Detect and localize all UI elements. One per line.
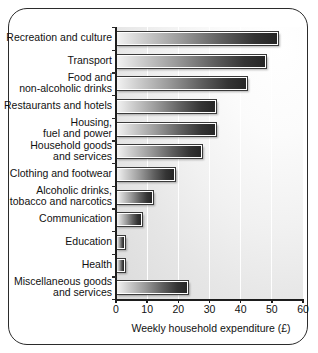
y-axis-tick [112,140,116,141]
y-axis-tick [112,27,116,28]
y-axis-tick [112,186,116,187]
y-axis-category-labels: Recreation and cultureTransportFood and … [2,27,112,299]
y-axis-tick [112,208,116,209]
y-axis-label: Education [4,236,112,248]
y-axis-label: Restaurants and hotels [4,100,112,112]
bar [116,145,202,158]
y-axis-label: Household goods and services [4,140,112,163]
gridline-60 [303,27,304,299]
bar [116,77,247,90]
y-axis-label: Miscellaneous goods and services [4,276,112,299]
y-axis-label: Food and non-alcoholic drinks [4,72,112,95]
gridline-10 [147,27,148,299]
y-axis-tick [112,72,116,73]
y-axis-tick [112,254,116,255]
x-axis-tick-label: 30 [204,303,216,315]
y-axis-label: Alcoholic drinks, tobacco and narcotics [4,185,112,208]
bar [116,281,188,294]
y-axis-label: Transport [4,55,112,67]
bar [116,236,125,249]
plot-area [116,27,303,299]
bar [116,55,266,68]
y-axis-label: Clothing and footwear [4,168,112,180]
x-axis-tick-label: 20 [172,303,184,315]
y-axis-tick [112,50,116,51]
bar [116,259,125,272]
y-axis-label: Recreation and culture [4,32,112,44]
gridline-50 [271,27,272,299]
y-axis-label: Health [4,259,112,271]
y-axis-tick [112,163,116,164]
chart-figure: Recreation and cultureTransportFood and … [0,0,318,353]
bar [116,123,216,136]
bar [116,32,278,45]
bar [116,168,175,181]
x-axis-tick-label: 10 [141,303,153,315]
gridline-40 [240,27,241,299]
y-axis-label: Communication [4,213,112,225]
x-axis-tick-label: 60 [297,303,309,315]
y-axis-tick [112,231,116,232]
x-axis-tick-label: 40 [235,303,247,315]
y-axis-tick [112,95,116,96]
y-axis-label: Housing, fuel and power [4,117,112,140]
bar [116,191,153,204]
gridline-30 [209,27,210,299]
bar [116,100,216,113]
x-axis-tick-label: 0 [113,303,119,315]
x-axis-tick-label: 50 [266,303,278,315]
x-axis-title: Weekly household expenditure (£) [116,322,306,334]
y-axis-tick [112,276,116,277]
gridline-20 [178,27,179,299]
bar [116,213,142,226]
y-axis-tick [112,118,116,119]
